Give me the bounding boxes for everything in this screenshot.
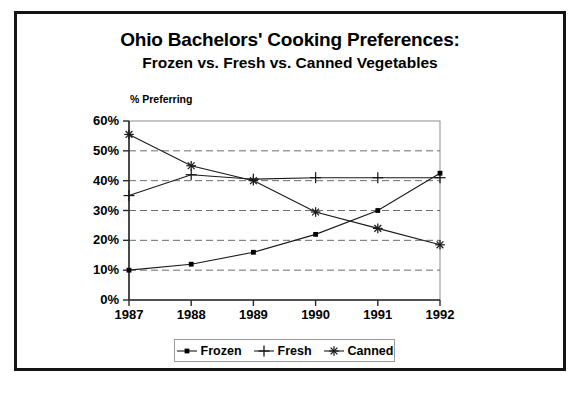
x-tick-label-1988: 1988 (164, 307, 218, 322)
x-tick-label-1989: 1989 (226, 307, 280, 322)
y-tick-marks (123, 121, 129, 300)
legend-label-frozen: Frozen (201, 344, 242, 358)
y-tick-label-40: 40% (73, 173, 119, 188)
bottom-caption-sliver (16, 389, 246, 396)
legend-entry-canned: Canned (323, 344, 394, 358)
x-tick-label-1990: 1990 (289, 307, 343, 322)
x-tick-label-1992: 1992 (413, 307, 467, 322)
legend-entry-frozen: Frozen (176, 344, 242, 358)
square-dot-marker-icon (176, 345, 198, 357)
y-tick-label-20: 20% (73, 232, 119, 247)
legend-label-canned: Canned (348, 344, 394, 358)
x-tick-label-1991: 1991 (351, 307, 405, 322)
legend-entry-fresh: Fresh (253, 344, 312, 358)
y-tick-label-0: 0% (73, 292, 119, 307)
plot-area-wrapper: % Preferring (17, 14, 569, 374)
y-tick-label-50: 50% (73, 143, 119, 158)
chart-legend: Frozen Fresh (174, 339, 395, 362)
y-tick-label-30: 30% (73, 203, 119, 218)
y-tick-label-60: 60% (73, 113, 119, 128)
figure-border-frame: Ohio Bachelors' Cooking Preferences: Fro… (14, 11, 566, 371)
asterisk-marker-icon (323, 345, 345, 357)
plus-marker-icon (253, 345, 275, 357)
x-tick-marks (129, 300, 440, 306)
x-tick-label-1987: 1987 (102, 307, 156, 322)
y-tick-label-10: 10% (73, 262, 119, 277)
legend-label-fresh: Fresh (278, 344, 312, 358)
